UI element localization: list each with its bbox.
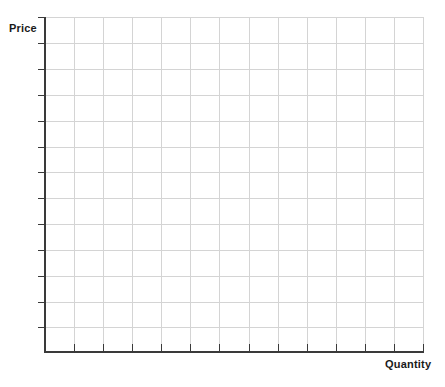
grid-vertical-lines [46,17,424,352]
plot-area [45,17,424,352]
y-axis-tick-marks [38,18,45,328]
x-axis-label: Quantity [385,358,431,370]
blank-graph-figure: Price [0,0,445,387]
grid-lines [45,17,424,352]
y-axis [38,17,45,353]
y-axis-label: Price [9,22,37,34]
grid-horizontal-lines [45,18,424,328]
